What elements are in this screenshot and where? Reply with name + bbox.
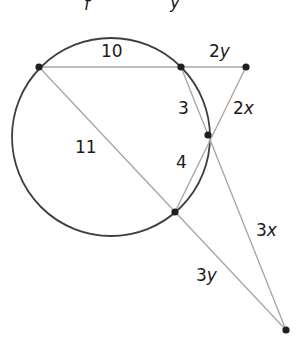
- label-de: 4: [176, 152, 187, 172]
- label-bd: 3: [178, 98, 189, 118]
- label-df: 3x: [256, 220, 278, 240]
- geometry-diagram: f y 10 2y 3 2x 11 4 3x 3y: [0, 0, 305, 343]
- cropped-text-fragment: f: [84, 0, 93, 14]
- point-c: [242, 63, 249, 70]
- point-b: [177, 63, 184, 70]
- cropped-text-fragment: y: [169, 0, 181, 12]
- label-ae: 11: [75, 137, 97, 157]
- point-a: [35, 63, 42, 70]
- label-ab: 10: [101, 41, 123, 61]
- label-cd: 2x: [233, 98, 255, 118]
- point-e: [171, 208, 178, 215]
- segment-secant-ce: [175, 67, 246, 212]
- label-bc: 2y: [209, 41, 231, 61]
- label-ef: 3y: [196, 265, 218, 285]
- point-d: [204, 131, 211, 138]
- point-f: [282, 326, 289, 333]
